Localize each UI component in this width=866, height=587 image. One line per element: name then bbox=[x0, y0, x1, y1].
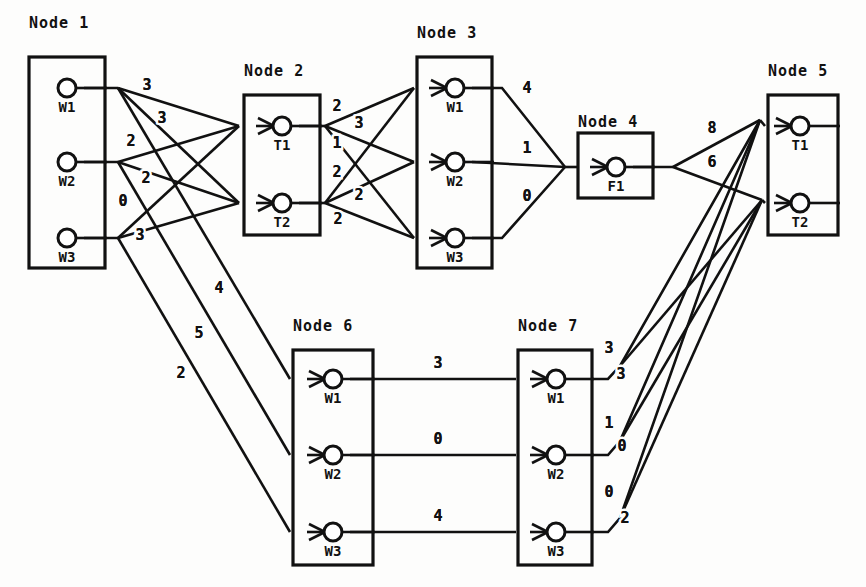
port-node1-w1[interactable]: W1 bbox=[58, 79, 107, 115]
port-node7-w3[interactable]: W3 bbox=[530, 523, 594, 559]
edge-weight-w-n3w3: 0 bbox=[522, 187, 531, 205]
edge-weight-w-n7w3-b: 2 bbox=[620, 509, 629, 527]
port-circle-icon[interactable] bbox=[324, 446, 342, 464]
edge-weight-w-n2t2-c: 2 bbox=[333, 210, 342, 228]
edge-node1-w3-to-node6-w3 bbox=[118, 238, 290, 532]
port-circle-icon[interactable] bbox=[324, 523, 342, 541]
port-circle-icon[interactable] bbox=[547, 370, 565, 388]
port-circle-icon[interactable] bbox=[58, 153, 76, 171]
edge-weight-w-n4-a: 8 bbox=[707, 119, 716, 137]
edge-weight-w-n3w2: 1 bbox=[522, 139, 531, 157]
port-node6-w2[interactable]: W2 bbox=[307, 446, 375, 482]
port-node3-w1[interactable]: W1 bbox=[429, 79, 494, 115]
node-group-node7[interactable]: Node 7W1W2W3 bbox=[518, 317, 594, 565]
edge-node7-w2-to-node5-t2 bbox=[620, 200, 762, 441]
port-node1-w3[interactable]: W3 bbox=[58, 229, 107, 265]
port-label: W3 bbox=[548, 543, 565, 559]
diagram-canvas: Node 1W1W2W3Node 2T1T2Node 3W1W2W3Node 4… bbox=[0, 0, 866, 587]
port-circle-icon[interactable] bbox=[446, 229, 464, 247]
edge-weight-w-n2t2-a: 2 bbox=[332, 163, 341, 181]
port-label: W2 bbox=[59, 173, 76, 189]
edge-weight-w-n1w2-a: 2 bbox=[126, 132, 135, 150]
port-label: W3 bbox=[59, 249, 76, 265]
port-circle-icon[interactable] bbox=[791, 117, 809, 135]
port-node2-t1[interactable]: T1 bbox=[256, 117, 322, 153]
edge-weight-w-n2t2-b: 2 bbox=[354, 186, 363, 204]
edge-junction-bottom-to-t2 bbox=[762, 200, 765, 203]
port-label: W2 bbox=[447, 173, 464, 189]
node-group-node4[interactable]: Node 4F1 bbox=[578, 113, 655, 198]
port-circle-icon[interactable] bbox=[547, 523, 565, 541]
port-node2-t2[interactable]: T2 bbox=[256, 194, 322, 230]
port-label: W2 bbox=[325, 466, 342, 482]
edge-weight-w-n7w3-a: 0 bbox=[604, 483, 613, 501]
edge-weight-w-n7w1-b: 3 bbox=[616, 365, 625, 383]
edge-weight-w-n7w1-a: 3 bbox=[604, 339, 613, 357]
edge-node1-w1-to-t2 bbox=[118, 88, 239, 203]
port-label: W1 bbox=[548, 390, 565, 406]
port-circle-icon[interactable] bbox=[58, 79, 76, 97]
port-circle-icon[interactable] bbox=[324, 370, 342, 388]
node-group-node5[interactable]: Node 5T1T2 bbox=[768, 62, 840, 235]
port-node3-w2[interactable]: W2 bbox=[429, 153, 494, 189]
edge-weight-w-n6w2: 0 bbox=[433, 430, 442, 448]
network-diagram: Node 1W1W2W3Node 2T1T2Node 3W1W2W3Node 4… bbox=[0, 0, 866, 587]
node-title-node1: Node 1 bbox=[29, 14, 89, 32]
port-circle-icon[interactable] bbox=[58, 229, 76, 247]
port-label: W1 bbox=[325, 390, 342, 406]
port-node5-t1[interactable]: T1 bbox=[774, 117, 840, 153]
node-group-node3[interactable]: Node 3W1W2W3 bbox=[417, 24, 494, 268]
port-node3-w3[interactable]: W3 bbox=[429, 229, 494, 265]
port-circle-icon[interactable] bbox=[273, 117, 291, 135]
port-circle-icon[interactable] bbox=[607, 158, 625, 176]
port-node4-f1[interactable]: F1 bbox=[590, 158, 655, 194]
edge-node7-w3-to-node5-t2 bbox=[620, 200, 762, 518]
edge-weight-w-n2t1-c: 1 bbox=[332, 134, 341, 152]
edge-weight-w-n4-b: 6 bbox=[707, 153, 716, 171]
port-node7-w1[interactable]: W1 bbox=[530, 370, 594, 406]
edge-weight-w-n1-n6-a: 4 bbox=[214, 279, 223, 297]
port-label: W1 bbox=[447, 99, 464, 115]
port-label: W3 bbox=[447, 249, 464, 265]
edge-weight-w-n7w2-b: 0 bbox=[617, 437, 626, 455]
port-label: T2 bbox=[274, 214, 291, 230]
edge-node3-w1-to-node4 bbox=[472, 88, 565, 167]
edge-node3-w3-to-node4 bbox=[472, 167, 565, 238]
node-group-node6[interactable]: Node 6W1W2W3 bbox=[293, 317, 375, 565]
node-title-node4: Node 4 bbox=[578, 113, 638, 131]
edge-node7-w1-to-node5-t2 bbox=[620, 200, 762, 366]
port-node7-w2[interactable]: W2 bbox=[530, 446, 594, 482]
port-node5-t2[interactable]: T2 bbox=[774, 194, 840, 230]
port-circle-icon[interactable] bbox=[791, 194, 809, 212]
port-circle-icon[interactable] bbox=[446, 79, 464, 97]
edge-weight-w-n1w3-b: 3 bbox=[135, 226, 144, 244]
edge-weight-w-n1-n6-c: 2 bbox=[176, 364, 185, 382]
port-circle-icon[interactable] bbox=[273, 194, 291, 212]
node-title-node3: Node 3 bbox=[417, 24, 477, 42]
node-group-node2[interactable]: Node 2T1T2 bbox=[244, 62, 322, 235]
port-label: T1 bbox=[274, 137, 291, 153]
port-label: W2 bbox=[548, 466, 565, 482]
edge-weight-w-n1w2-b: 2 bbox=[141, 169, 150, 187]
port-node6-w1[interactable]: W1 bbox=[307, 370, 375, 406]
edge-weight-w-n6w1: 3 bbox=[433, 354, 442, 372]
port-label: T1 bbox=[792, 137, 809, 153]
edges-node2-to-node3 bbox=[299, 88, 414, 238]
port-node6-w3[interactable]: W3 bbox=[307, 523, 375, 559]
port-circle-icon[interactable] bbox=[547, 446, 565, 464]
nodes-layer: Node 1W1W2W3Node 2T1T2Node 3W1W2W3Node 4… bbox=[29, 14, 840, 565]
port-circle-icon[interactable] bbox=[446, 153, 464, 171]
edge-weight-w-n2t1-b: 3 bbox=[354, 114, 363, 132]
edge-weight-w-n7w2-a: 1 bbox=[604, 414, 613, 432]
port-label: F1 bbox=[608, 178, 625, 194]
edge-weight-w-n1w3-a: 0 bbox=[118, 192, 127, 210]
port-label: W1 bbox=[59, 99, 76, 115]
edge-weight-w-n6w3: 4 bbox=[433, 507, 442, 525]
node-title-node2: Node 2 bbox=[244, 62, 304, 80]
node-group-node1[interactable]: Node 1W1W2W3 bbox=[29, 14, 107, 268]
edge-weight-w-n2t1-a: 2 bbox=[332, 97, 341, 115]
port-label: W3 bbox=[325, 543, 342, 559]
port-label: T2 bbox=[792, 214, 809, 230]
port-node1-w2[interactable]: W2 bbox=[58, 153, 107, 189]
node-title-node6: Node 6 bbox=[293, 317, 353, 335]
